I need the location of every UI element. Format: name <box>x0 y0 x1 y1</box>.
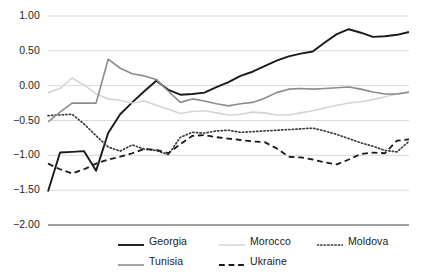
legend-swatch-moldova <box>317 236 343 246</box>
series-line-tunisia <box>48 59 409 122</box>
legend-item-ukraine[interactable]: Ukraine <box>219 255 287 267</box>
legend-swatch-morocco <box>219 236 245 246</box>
legend-row: GeorgiaMoroccoMoldova <box>118 231 418 251</box>
legend-label-morocco: Morocco <box>250 235 291 247</box>
line-chart: 1.000.500.00−0.50−1.00−1.50−2.00 Georgia… <box>0 0 423 277</box>
legend-row: TunisiaUkraine <box>118 251 418 271</box>
legend-label-ukraine: Ukraine <box>250 255 287 267</box>
legend-swatch-tunisia <box>118 256 144 266</box>
legend-swatch-georgia <box>118 236 144 246</box>
legend-label-georgia: Georgia <box>149 235 187 247</box>
legend-label-moldova: Moldova <box>348 235 388 247</box>
gridlines <box>48 16 409 225</box>
legend-swatch-ukraine <box>219 256 245 266</box>
data-series-group <box>48 29 409 191</box>
legend-item-moldova[interactable]: Moldova <box>317 235 388 247</box>
legend-item-tunisia[interactable]: Tunisia <box>118 255 219 267</box>
series-line-georgia <box>48 29 409 191</box>
legend-label-tunisia: Tunisia <box>149 255 183 267</box>
chart-legend: GeorgiaMoroccoMoldovaTunisiaUkraine <box>118 231 418 271</box>
legend-item-georgia[interactable]: Georgia <box>118 235 219 247</box>
legend-item-morocco[interactable]: Morocco <box>219 235 317 247</box>
